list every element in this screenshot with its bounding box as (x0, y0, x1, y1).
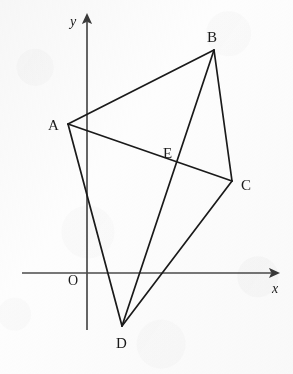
geometry-figure: x y O A B C D E (0, 0, 293, 374)
point-label-e: E (163, 145, 172, 161)
segment-ad (68, 124, 122, 326)
point-labels-group: A B C D E (48, 29, 251, 351)
origin-label: O (68, 273, 78, 288)
point-label-d: D (116, 335, 127, 351)
y-axis-label: y (68, 14, 77, 29)
diagram-canvas: x y O A B C D E (0, 0, 293, 374)
axes-group: x y O (22, 14, 279, 330)
segments-group (68, 50, 232, 326)
x-axis-label: x (271, 281, 279, 296)
segment-bd (122, 50, 214, 326)
point-label-b: B (207, 29, 217, 45)
point-label-a: A (48, 117, 59, 133)
point-label-c: C (241, 177, 251, 193)
segment-ac (68, 124, 232, 181)
segment-cd (122, 181, 232, 326)
segment-ab (68, 50, 214, 124)
segment-bc (214, 50, 232, 181)
